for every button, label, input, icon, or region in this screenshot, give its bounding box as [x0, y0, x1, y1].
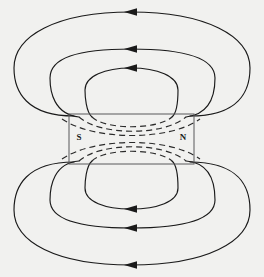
figure-background	[0, 0, 264, 277]
north-pole-label: N	[180, 132, 187, 142]
magnetic-field-diagram: S N	[0, 0, 264, 277]
field-diagram-canvas: S N	[0, 0, 264, 277]
south-pole-label: S	[76, 132, 81, 142]
